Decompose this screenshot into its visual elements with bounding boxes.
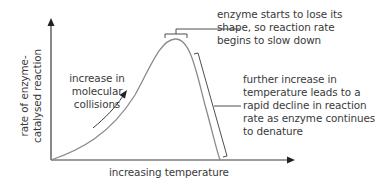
decline-annotation: further increase in temperature leads to…	[243, 73, 375, 138]
y-axis-label-line-2: catalysed reaction	[31, 43, 44, 149]
decline-annotation-line-3: rapid decline in reaction	[243, 99, 375, 112]
x-axis	[51, 157, 295, 164]
decline-annotation-line-2: temperature leads to a	[243, 86, 375, 99]
rise-annotation-line-3: collisions	[68, 98, 126, 111]
rise-annotation-line-1: increase in	[68, 72, 126, 85]
peak-annotation-line-2: shape, so reaction rate	[217, 21, 342, 34]
x-axis-label: increasing temperature	[109, 166, 229, 179]
y-axis-arrow-icon	[48, 18, 55, 26]
decline-bracket	[194, 53, 241, 157]
y-axis-label: rate of enzyme- catalysed reaction	[18, 43, 44, 149]
x-axis-arrow-icon	[287, 157, 295, 164]
rise-annotation-line-2: molecular	[68, 85, 126, 98]
decline-annotation-line-5: to denature	[243, 125, 375, 138]
peak-annotation: enzyme starts to lose its shape, so reac…	[217, 8, 342, 47]
y-axis-label-line-1: rate of enzyme-	[18, 43, 31, 149]
rise-annotation: increase in molecular collisions	[68, 72, 126, 111]
decline-annotation-line-1: further increase in	[243, 73, 375, 86]
decline-annotation-line-4: rate as enzyme continues	[243, 112, 375, 125]
peak-annotation-line-3: begins to slow down	[217, 34, 342, 47]
peak-annotation-line-1: enzyme starts to lose its	[217, 8, 342, 21]
y-axis	[48, 18, 55, 160]
